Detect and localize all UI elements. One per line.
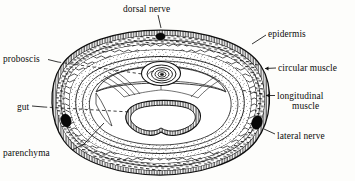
label-circular-muscle: circular muscle: [278, 63, 337, 74]
label-parenchyma: parenchyma: [3, 148, 50, 159]
proboscis-organ: [142, 62, 181, 86]
label-epidermis: epidermis: [268, 29, 306, 40]
worm-cross-section-figure: dorsal nerve epidermis circular muscle l…: [0, 0, 355, 181]
label-lateral-nerve: lateral nerve: [277, 131, 325, 142]
label-proboscis: proboscis: [3, 54, 40, 65]
label-dorsal-nerve: dorsal nerve: [123, 4, 170, 15]
label-longitudinal-muscle: longitudinal: [277, 91, 324, 102]
gut-organ: [126, 100, 201, 135]
label-gut: gut: [17, 102, 29, 113]
label-longitudinal-muscle-line2: muscle: [292, 101, 319, 112]
dorsal-nerve-cord: [156, 33, 165, 40]
